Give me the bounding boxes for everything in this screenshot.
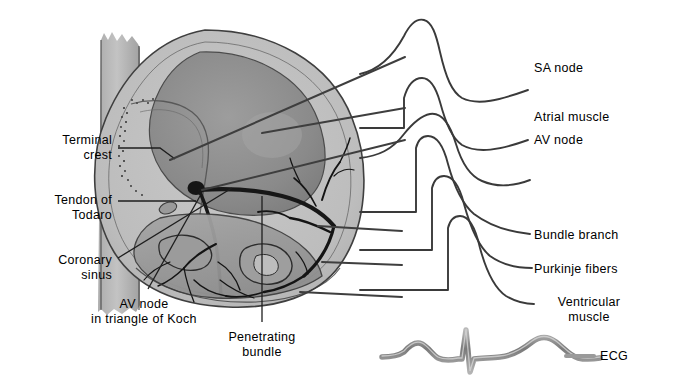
label-tendon-of-todaro: Tendon of Todaro: [0, 193, 112, 223]
waveform-ecg-highlight: [382, 329, 600, 371]
action-potential-group: [360, 20, 534, 304]
label-ventricular-muscle: Ventricular muscle: [534, 295, 644, 325]
label-ecg: ECG: [600, 349, 628, 364]
ecg-trace-group: [382, 329, 600, 372]
waveform-sa-node: [360, 20, 528, 102]
leader-to-ventricular-muscle: [300, 292, 402, 297]
waveform-atrial-muscle: [360, 78, 528, 150]
label-bundle-branch: Bundle branch: [534, 228, 619, 243]
label-penetrating-bundle: Penetrating bundle: [197, 330, 327, 360]
label-atrial-muscle: Atrial muscle: [534, 110, 609, 125]
label-av-node: AV node: [534, 133, 583, 148]
label-purkinje-fibers: Purkinje fibers: [534, 262, 618, 277]
label-sa-node: SA node: [534, 61, 583, 76]
waveform-purkinje-fibers: [360, 176, 532, 268]
heart-illustration: [95, 30, 364, 307]
cardiac-conduction-figure: Terminal crest Tendon of Todaro Coronary…: [0, 0, 685, 388]
label-coronary-sinus: Coronary sinus: [0, 253, 112, 283]
label-terminal-crest: Terminal crest: [0, 133, 112, 163]
label-av-node-triangle-of-koch: AV node in triangle of Koch: [44, 297, 244, 327]
waveform-av-node: [360, 114, 530, 186]
